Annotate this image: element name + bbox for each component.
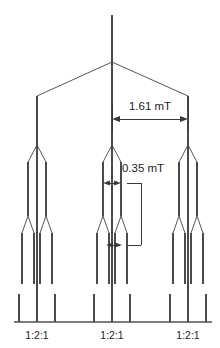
dimension-1-61-mT: 1.61 mT — [112, 98, 188, 131]
arrowhead-right-icon — [180, 116, 188, 122]
small-splitting-label: 0.35 mT — [122, 162, 164, 174]
arrowhead-right-icon — [114, 181, 121, 186]
spectrum-group-left — [19, 278, 55, 322]
level3-cluster-right — [173, 216, 203, 284]
spectrum-group-center — [94, 278, 130, 322]
epr-splitting-tree-figure: 1.61 mT 0.35 mT — [0, 0, 220, 348]
splitting-tree-canvas: 1.61 mT 0.35 mT — [0, 0, 220, 348]
ratio-label-left: 1:2:1 — [25, 329, 49, 341]
ratio-labels: 1:2:1 1:2:1 1:2:1 — [25, 329, 200, 341]
arrowhead-right-icon — [115, 243, 122, 248]
ratio-label-center: 1:2:1 — [100, 329, 124, 341]
arrowhead-left-icon — [112, 116, 120, 122]
large-splitting-label: 1.61 mT — [129, 100, 171, 112]
level2-cluster-right — [179, 145, 197, 216]
arrowhead-left-icon — [103, 181, 110, 186]
level3-cluster-center — [97, 216, 127, 284]
stick-spectrum — [14, 278, 212, 322]
level3-cluster-left — [22, 216, 52, 284]
ratio-label-right: 1:2:1 — [176, 329, 200, 341]
level2-cluster-left — [28, 145, 46, 216]
spectrum-group-right — [170, 278, 206, 322]
level2-cluster-center — [103, 145, 121, 216]
